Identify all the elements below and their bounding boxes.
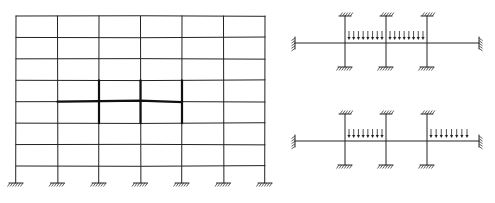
load-arrow-icon bbox=[450, 129, 453, 138]
support-hatch bbox=[381, 13, 384, 17]
fixed-support-icon bbox=[378, 67, 394, 71]
support-hatch bbox=[385, 67, 388, 71]
support-hatch bbox=[267, 183, 270, 187]
support-hatch bbox=[386, 111, 389, 115]
structural-diagram bbox=[0, 0, 495, 203]
support-hatch bbox=[96, 183, 99, 187]
support-hatch bbox=[223, 183, 226, 187]
fixed-support-icon bbox=[419, 165, 435, 169]
fixed-support-icon bbox=[174, 183, 190, 187]
support-hatch bbox=[479, 46, 483, 49]
fixed-support-icon bbox=[132, 183, 148, 187]
fixed-support-icon bbox=[292, 135, 296, 149]
support-hatch bbox=[142, 183, 145, 187]
support-hatch bbox=[422, 111, 425, 115]
support-hatch bbox=[350, 13, 353, 17]
support-hatch bbox=[218, 183, 221, 187]
subframe-load-case-b bbox=[292, 111, 483, 169]
support-hatch bbox=[270, 183, 273, 187]
support-hatch bbox=[378, 165, 381, 169]
support-hatch bbox=[215, 183, 218, 187]
load-arrow-icon bbox=[347, 129, 350, 138]
load-arrow-icon bbox=[440, 129, 443, 138]
arrow-head bbox=[417, 37, 420, 40]
fixed-support-icon bbox=[421, 111, 435, 115]
fixed-support-icon bbox=[292, 37, 296, 51]
support-hatch bbox=[52, 183, 55, 187]
arrow-head bbox=[347, 135, 350, 138]
support-hatch bbox=[62, 183, 65, 187]
load-arrow-icon bbox=[362, 31, 365, 40]
support-hatch bbox=[21, 183, 24, 187]
fixed-support-icon bbox=[421, 13, 435, 17]
support-hatch bbox=[432, 13, 435, 17]
load-arrow-icon bbox=[366, 129, 369, 138]
support-hatch bbox=[340, 13, 343, 17]
support-hatch bbox=[424, 165, 427, 169]
support-hatch bbox=[339, 165, 342, 169]
fixed-support-icon bbox=[380, 111, 394, 115]
load-arrow-icon bbox=[393, 31, 396, 40]
subframe-load-case-a bbox=[292, 13, 483, 71]
support-hatch bbox=[292, 136, 296, 139]
support-hatch bbox=[432, 165, 435, 169]
support-hatch bbox=[432, 67, 435, 71]
fixed-support-icon bbox=[49, 183, 65, 187]
support-hatch bbox=[220, 183, 223, 187]
arrow-head bbox=[445, 135, 448, 138]
arrow-head bbox=[362, 37, 365, 40]
support-hatch bbox=[101, 183, 104, 187]
support-hatch bbox=[292, 144, 296, 147]
support-hatch bbox=[228, 183, 231, 187]
arrow-head bbox=[371, 135, 374, 138]
support-hatch bbox=[427, 111, 430, 115]
arrow-head bbox=[403, 37, 406, 40]
support-hatch bbox=[378, 67, 381, 71]
support-hatch bbox=[430, 111, 433, 115]
support-hatch bbox=[181, 183, 184, 187]
support-hatch bbox=[225, 183, 228, 187]
support-hatch bbox=[292, 38, 296, 41]
load-arrow-icon bbox=[357, 31, 360, 40]
fixed-support-icon bbox=[380, 13, 394, 17]
support-hatch bbox=[342, 67, 345, 71]
support-hatch bbox=[91, 183, 94, 187]
fixed-support-icon bbox=[337, 67, 353, 71]
fixed-support-icon bbox=[419, 67, 435, 71]
support-hatch bbox=[292, 139, 296, 142]
support-hatch bbox=[292, 41, 296, 44]
support-hatch bbox=[179, 183, 182, 187]
support-hatch bbox=[479, 38, 483, 41]
support-hatch bbox=[479, 41, 483, 44]
support-hatch bbox=[257, 183, 260, 187]
support-hatch bbox=[292, 141, 296, 144]
support-hatch bbox=[391, 13, 394, 17]
arrow-head bbox=[376, 37, 379, 40]
support-hatch bbox=[350, 111, 353, 115]
load-arrow-icon bbox=[347, 31, 350, 40]
arrow-head bbox=[357, 135, 360, 138]
load-arrow-icon bbox=[403, 31, 406, 40]
support-hatch bbox=[426, 165, 429, 169]
load-arrow-icon bbox=[376, 129, 379, 138]
support-hatch bbox=[384, 111, 387, 115]
support-hatch bbox=[262, 183, 265, 187]
support-hatch bbox=[344, 67, 347, 71]
support-hatch bbox=[350, 165, 353, 169]
diagram-canvas bbox=[0, 0, 495, 203]
support-hatch bbox=[98, 183, 101, 187]
load-arrow-icon bbox=[417, 31, 420, 40]
load-arrow-icon bbox=[388, 31, 391, 40]
support-hatch bbox=[479, 141, 483, 144]
support-hatch bbox=[385, 165, 388, 169]
load-arrow-icon bbox=[366, 31, 369, 40]
frame-beam bbox=[16, 16, 265, 17]
load-arrow-icon bbox=[455, 129, 458, 138]
support-hatch bbox=[292, 48, 296, 51]
arrow-head bbox=[357, 37, 360, 40]
support-hatch bbox=[292, 146, 296, 149]
arrow-head bbox=[393, 37, 396, 40]
support-hatch bbox=[479, 144, 483, 147]
support-hatch bbox=[174, 183, 177, 187]
support-hatch bbox=[176, 183, 179, 187]
